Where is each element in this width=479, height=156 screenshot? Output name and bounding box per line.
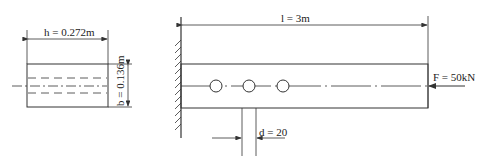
beam: l = 3m d = 20 F = 50kN <box>181 12 475 156</box>
beam-diagram: h = 0.272m b = 0.136m l = 3m d = 20 F = … <box>0 0 479 156</box>
force-label: F = 50kN <box>433 71 475 83</box>
hole-1 <box>210 80 222 92</box>
hole-diameter-label: d = 20 <box>259 126 288 138</box>
length-label: l = 3m <box>281 12 310 24</box>
fixed-support <box>175 17 181 138</box>
width-label: h = 0.272m <box>44 26 95 38</box>
cross-section: h = 0.272m b = 0.136m <box>12 26 132 107</box>
hole-2 <box>243 80 255 92</box>
diagram-canvas: h = 0.272m b = 0.136m l = 3m d = 20 F = … <box>0 0 479 156</box>
hole-3 <box>277 80 289 92</box>
height-label: b = 0.136m <box>114 55 126 106</box>
